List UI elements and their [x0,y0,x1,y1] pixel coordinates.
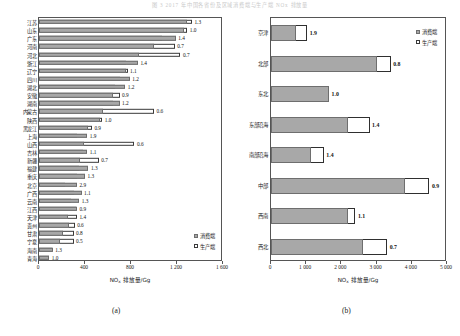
bar-consumption [271,86,329,102]
bar-row: 上海1.9 [39,132,221,140]
bar-row: 内蒙古0.6 [39,107,221,115]
axis-tick-label: 400 [80,264,88,270]
chart-a-plot-area: 江苏1.3山东1.0广东1.4河南0.7河北0.7浙江1.4辽宁1.1四川1.2… [38,17,222,261]
bar-value-label: 1.9 [90,133,97,139]
bar-row: 北部0.8 [271,49,445,80]
bar-consumption [39,190,82,194]
bar-row: 贵州0.6 [39,221,221,229]
bar-row: 广东1.4 [39,34,221,42]
category-label: 黑龙江 [23,124,37,131]
bar-consumption [39,247,53,251]
bar-value-label: 1.4 [372,122,379,128]
bar-value-label: 0.6 [157,108,164,114]
axis-tick-label: 0 [37,264,40,270]
chart-a-x-axis-title: NOx 排放量/Gg [38,276,222,284]
bar-consumption [39,207,77,211]
bar-consumption [39,125,88,129]
caption-b: (b) [342,306,351,315]
category-label: 青海 [27,254,37,261]
category-label: 陕西 [27,116,37,123]
axis-tick-label: 3 000 [370,264,382,270]
bar-row: 山西0.6 [39,140,221,148]
bar-consumption [271,147,311,163]
category-label: 北部 [258,60,268,68]
category-label: 西北 [258,243,268,251]
bar-value-label: 1.9 [310,30,317,36]
bar-row: 云南1.3 [39,197,221,205]
bar-consumption [271,25,296,41]
bar-value-label: 1.3 [91,165,98,171]
bar-consumption [39,85,125,89]
bar-value-label: 1.4 [326,152,333,158]
category-label: 安徽 [27,92,37,99]
category-label: 山西 [27,140,37,147]
axis-tick-label: 2 000 [334,264,346,270]
bar-value-label: 1.4 [140,60,147,66]
category-label: 江西 [27,205,37,212]
chart-b-x-axis-title: NOx 排放量/Gg [270,276,446,284]
bar-value-label: 1.2 [132,76,139,82]
bar-value-label: 0.7 [101,157,108,163]
bar-value-label: 0.8 [393,61,400,67]
bar-row: 安徽0.9 [39,91,221,99]
category-label: 新疆 [27,157,37,164]
bar-consumption [39,174,85,178]
category-label: 吉林 [27,149,37,156]
bar-consumption [39,231,63,235]
category-label: 辽宁 [27,67,37,74]
legend-item-consumption: 消费端 [194,232,216,239]
bar-consumption [39,215,68,219]
category-label: 南部沿海 [249,151,268,159]
figure-b: 京津1.9北部0.8东北1.0东部沿海1.4南部沿海1.4中部0.9西南1.1西… [236,12,456,302]
category-label: 四川 [27,75,37,82]
figure-a: 江苏1.3山东1.0广东1.4河南0.7河北0.7浙江1.4辽宁1.1四川1.2… [8,12,230,302]
bar-row: 河南0.7 [39,42,221,50]
bar-value-label: 2.9 [79,182,86,188]
bar-consumption [39,60,138,64]
bar-value-label: 0.7 [390,244,397,250]
chart-b-plot-area: 京津1.9北部0.8东北1.0东部沿海1.4南部沿海1.4中部0.9西南1.1西… [270,17,446,261]
chart-a-xlabel-suffix: 排放量/Gg [121,277,151,283]
bar-consumption [39,28,184,32]
bar-value-label: 0.7 [177,43,184,49]
category-label: 天津 [27,214,37,221]
category-label: 河南 [27,43,37,50]
bar-value-label: 0.8 [76,230,83,236]
page-running-header: 图 3 2017 年中国各省份及区域消费端与生产端 NOx 排放量 [0,1,460,8]
bar-row: 西北0.7 [271,232,445,263]
bar-consumption [39,150,87,154]
bar-value-label: 0.5 [76,238,83,244]
category-label: 中部 [258,182,268,190]
bar-consumption [39,44,154,48]
chart-a-xlabel-prefix: NO [110,277,119,283]
bar-value-label: 1.0 [52,255,59,261]
bar-row: 湖南1.2 [39,99,221,107]
bar-value-label: 0.7 [183,52,190,58]
category-label: 北京 [27,181,37,188]
bar-row: 四川1.2 [39,75,221,83]
category-label: 东北 [258,90,268,98]
category-label: 上海 [27,132,37,139]
category-label: 广西 [27,189,37,196]
bar-value-label: 0.9 [94,125,101,131]
legend-swatch-consumption-icon [194,234,198,238]
category-label: 西南 [258,212,268,220]
bar-consumption [39,109,103,113]
chart-a-bar-rows: 江苏1.3山东1.0广东1.4河南0.7河北0.7浙江1.4辽宁1.1四川1.2… [39,18,221,260]
bar-consumption [39,239,60,243]
bar-value-label: 1.4 [79,214,86,220]
bar-consumption [39,93,113,97]
bar-value-label: 1.2 [128,84,135,90]
bar-row: 重庆1.3 [39,172,221,180]
bar-value-label: 1.4 [178,35,185,41]
bar-consumption [271,117,348,133]
bar-consumption [39,52,139,56]
bar-consumption [39,20,187,24]
category-label: 江苏 [27,19,37,26]
chart-b-xlabel-prefix: NO [338,277,347,283]
category-label: 重庆 [27,173,37,180]
bar-consumption [271,178,405,194]
bar-value-label: 1.0 [332,91,339,97]
bar-row: 中部0.9 [271,171,445,202]
bar-consumption [39,142,84,146]
